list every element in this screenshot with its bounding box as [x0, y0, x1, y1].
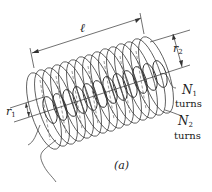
lead-wire-left-1 [28, 125, 40, 145]
n1-label: N1 [182, 84, 197, 98]
length-dimension-line [32, 18, 141, 53]
n2-symbol: N [178, 114, 189, 128]
n2-label: N2 [178, 115, 193, 129]
r2-reference-line [150, 30, 190, 42]
figure-caption: (a) [114, 160, 129, 171]
length-label: ℓ [80, 22, 85, 34]
n2-turns-label: turns [174, 131, 201, 141]
r2-label: r2 [173, 43, 183, 56]
n1-subscript: 1 [193, 90, 197, 98]
length-extension-right [140, 13, 144, 34]
r1-subscript: 1 [11, 111, 15, 119]
r1-label: r1 [6, 106, 16, 119]
coaxial-solenoid-diagram [0, 0, 212, 192]
n2-subscript: 2 [189, 121, 193, 129]
length-extension-left [30, 48, 34, 68]
n1-turns-label: turns [175, 99, 202, 109]
outer-coil-n2 [19, 33, 180, 153]
r2-subscript: 2 [178, 48, 182, 56]
n1-symbol: N [182, 83, 193, 97]
lead-wire-left-2 [41, 140, 56, 182]
